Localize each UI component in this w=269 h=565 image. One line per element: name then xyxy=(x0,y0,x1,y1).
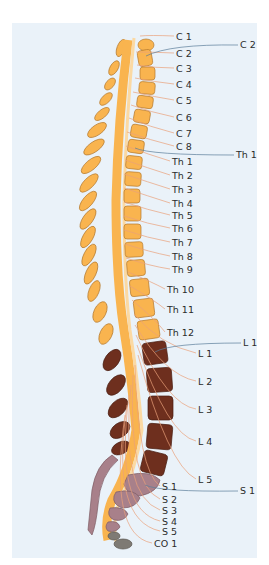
vertebra-c2 xyxy=(137,49,154,67)
label-co1: CO 1 xyxy=(154,538,177,549)
label-l3: L 3 xyxy=(198,404,212,415)
spine-diagram: C 1 C 2 C 3 C 4 C 5 C 6 C 7 C 8 Th 1 Th … xyxy=(0,0,269,565)
vertebra-co1b xyxy=(114,539,132,549)
vertebra-th4 xyxy=(124,189,140,203)
label-th12: Th 12 xyxy=(166,327,194,338)
label-th4: Th 4 xyxy=(171,198,193,209)
vertebra-s4 xyxy=(106,522,120,532)
label-th8: Th 8 xyxy=(171,251,193,262)
vertebra-l4 xyxy=(146,423,173,450)
label-c2: C 2 xyxy=(176,48,192,59)
vertebra-label-c2: C 2 xyxy=(240,39,256,50)
vertebra-c4 xyxy=(139,81,156,94)
label-s2: S 2 xyxy=(162,494,177,505)
vertebra-label-l1: L 1 xyxy=(243,337,257,348)
vertebra-c6 xyxy=(133,109,151,125)
label-c3: C 3 xyxy=(176,63,192,74)
vertebra-th10 xyxy=(133,298,155,318)
vertebra-co1a xyxy=(108,532,120,540)
label-c6: C 6 xyxy=(176,112,192,123)
vertebra-th2 xyxy=(125,155,142,170)
label-th5: Th 5 xyxy=(171,210,193,221)
vertebra-label-s1: S 1 xyxy=(240,485,255,496)
label-th1: Th 1 xyxy=(171,156,193,167)
label-s3: S 3 xyxy=(162,505,177,516)
vertebra-label-th1: Th 1 xyxy=(235,149,257,160)
vertebra-c1 xyxy=(138,39,154,51)
label-l4: L 4 xyxy=(198,436,212,447)
label-th2: Th 2 xyxy=(171,170,193,181)
label-l1: L 1 xyxy=(198,348,212,359)
label-s1: S 1 xyxy=(162,481,177,492)
label-th6: Th 6 xyxy=(171,223,193,234)
vertebra-th8 xyxy=(126,259,145,277)
label-th3: Th 3 xyxy=(171,184,193,195)
vertebra-th7 xyxy=(125,242,144,258)
label-th11: Th 11 xyxy=(166,304,194,315)
vertebra-th11 xyxy=(137,319,160,341)
label-c8: C 8 xyxy=(176,141,192,152)
label-l2: L 2 xyxy=(198,376,212,387)
vertebra-th6 xyxy=(124,224,141,239)
vertebra-c5 xyxy=(136,95,154,109)
vertebra-c3 xyxy=(140,67,155,80)
label-c4: C 4 xyxy=(176,79,192,90)
label-c5: C 5 xyxy=(176,95,192,106)
label-th7: Th 7 xyxy=(171,237,193,248)
vertebra-c7 xyxy=(130,124,148,140)
vertebra-labels: C 2 Th 1 L 1 S 1 xyxy=(235,39,257,496)
label-th10: Th 10 xyxy=(166,284,194,295)
label-c1: C 1 xyxy=(176,31,192,42)
label-th9: Th 9 xyxy=(171,264,193,275)
label-c7: C 7 xyxy=(176,128,192,139)
label-s5: S 5 xyxy=(162,526,177,537)
label-l5: L 5 xyxy=(198,474,212,485)
